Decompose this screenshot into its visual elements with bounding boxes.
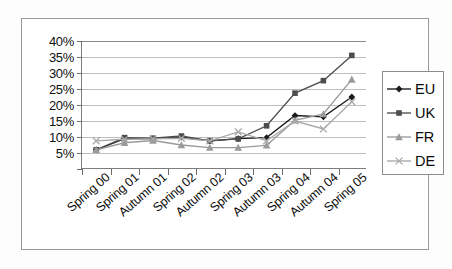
series-line (96, 102, 352, 141)
x-axis-tick (111, 169, 112, 175)
x-axis-tick (82, 169, 83, 175)
series-eu (93, 94, 355, 154)
legend-label: DE (415, 154, 435, 169)
legend-label: UK (415, 106, 435, 121)
chart-frame: 40%35%30%25%20%15%10%5% Spring 00Spring … (21, 18, 429, 250)
legend-label: EU (415, 82, 435, 97)
data-point-marker (292, 90, 298, 96)
data-point-marker (264, 123, 270, 129)
y-axis-tick-label: 25% (49, 83, 74, 96)
legend-marker-cross-icon (386, 154, 412, 168)
legend-marker-square-icon (386, 106, 412, 120)
legend-marker-triangle-icon (386, 130, 412, 144)
data-point-marker (349, 53, 355, 59)
data-point-marker (235, 128, 242, 135)
series-layer (82, 41, 366, 169)
x-axis-tick (310, 169, 311, 175)
data-point-marker (321, 78, 327, 84)
plot-area: 40%35%30%25%20%15%10%5% (81, 41, 366, 169)
legend-item-de[interactable]: DE (383, 149, 443, 173)
data-point-marker (235, 136, 241, 142)
x-axis-tick (253, 169, 254, 175)
legend-item-fr[interactable]: FR (383, 125, 443, 149)
series-line (96, 55, 352, 149)
x-axis-tick (339, 169, 340, 175)
y-axis-tick-label: 20% (49, 99, 74, 112)
chart-screenshot: 40%35%30%25%20%15%10%5% Spring 00Spring … (0, 0, 452, 269)
legend-item-eu[interactable]: EU (383, 77, 443, 101)
data-point-marker (348, 76, 356, 83)
x-axis-tick (168, 169, 169, 175)
x-axis-tick (196, 169, 197, 175)
y-axis-tick-label: 30% (49, 67, 74, 80)
x-axis-tick (139, 169, 140, 175)
y-axis-tick-label: 5% (56, 147, 74, 160)
x-axis-tick (282, 169, 283, 175)
y-axis-tick-label: 40% (49, 35, 74, 48)
plot-axes (81, 41, 366, 169)
legend-label: FR (415, 130, 434, 145)
y-axis-tick-label: 10% (49, 131, 74, 144)
y-axis-tick-label: 15% (49, 115, 74, 128)
series-uk (93, 53, 354, 153)
y-axis-tick-label: 35% (49, 51, 74, 64)
legend-marker-diamond-icon (386, 82, 412, 96)
x-axis-tick (225, 169, 226, 175)
series-fr (92, 76, 355, 153)
legend-item-uk[interactable]: UK (383, 101, 443, 125)
chart-legend: EUUKFRDE (382, 71, 444, 175)
